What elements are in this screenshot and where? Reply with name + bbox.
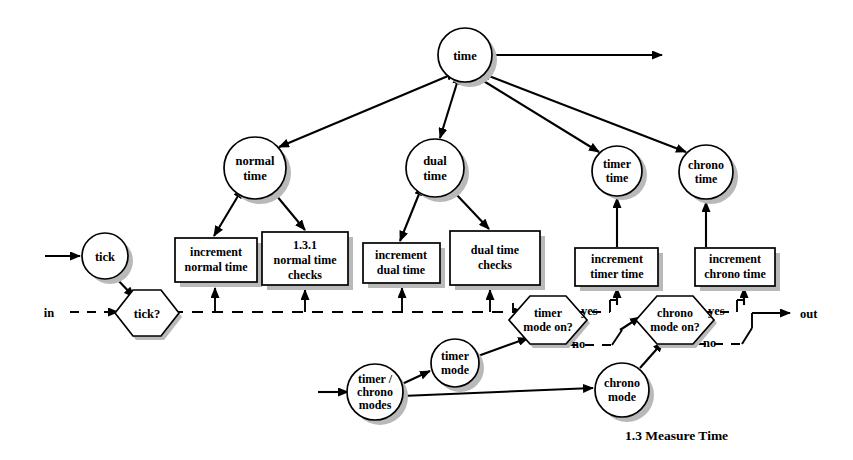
node-chrono-mode[interactable]: chrono mode <box>595 363 654 422</box>
process-increment-timer-time-label-1: increment <box>591 252 643 266</box>
process-increment-dual-time-label-1: increment <box>375 248 427 262</box>
edge-modes-to-timer-mode <box>402 371 430 384</box>
node-time-label: time <box>453 49 477 63</box>
process-increment-dual-time-label-2: dual time <box>377 263 426 277</box>
control-flow-dashed-line <box>172 297 524 312</box>
node-chrono-time-label-1: chrono <box>688 158 724 172</box>
decision-timer-mode-on-label-1: timer <box>534 306 563 320</box>
node-timer-time-label-2: time <box>606 171 629 185</box>
process-increment-normal-time-label-2: normal time <box>185 260 249 274</box>
process-increment-normal-time-label-1: increment <box>190 245 242 259</box>
node-chrono-time-label-2: time <box>695 172 718 186</box>
edge-time-chrono-time <box>489 76 686 152</box>
node-timer-mode-label-2: mode <box>441 363 470 377</box>
label-chrono-yes: yes <box>708 304 725 318</box>
node-tick[interactable]: tick <box>82 233 133 284</box>
label-timer-yes: yes <box>581 304 598 318</box>
node-timer-chrono-modes[interactable]: timer / chrono modes <box>347 364 408 425</box>
node-timer-time[interactable]: timer time <box>592 146 647 200</box>
node-timer-mode[interactable]: timer mode <box>431 339 484 392</box>
edge-dual-time-checks <box>455 193 489 229</box>
edge-normal-time-increment <box>214 196 238 236</box>
label-chrono-no: no <box>703 336 716 350</box>
node-timer-mode-label-1: timer <box>441 349 470 363</box>
edge-modes-to-chrono-mode <box>402 388 593 396</box>
diagram-canvas: time normal time dual time timer time ch… <box>0 0 853 460</box>
process-normal-time-checks-label-3: checks <box>288 268 322 282</box>
process-increment-chrono-time-label-1: increment <box>709 252 761 266</box>
process-increment-normal-time[interactable]: increment normal time <box>175 238 262 287</box>
process-increment-dual-time[interactable]: increment dual time <box>363 243 445 288</box>
process-normal-time-checks[interactable]: 1.3.1 normal time checks <box>262 232 353 290</box>
diagram-caption: 1.3 Measure Time <box>625 428 728 443</box>
process-increment-timer-time[interactable]: increment timer time <box>575 248 663 291</box>
label-out: out <box>800 307 818 321</box>
node-timer-chrono-modes-label-1: timer / <box>358 372 393 386</box>
process-increment-timer-time-label-2: timer time <box>590 267 644 281</box>
process-normal-time-checks-label-2: normal time <box>274 253 338 267</box>
label-in: in <box>44 306 54 320</box>
node-dual-time-label-1: dual <box>423 154 447 168</box>
label-timer-no: no <box>572 337 585 351</box>
decision-tick-question[interactable]: tick? <box>115 290 182 340</box>
edge-time-dual-time <box>440 83 457 138</box>
node-tick-label: tick <box>95 250 115 264</box>
edge-time-normal-time <box>279 76 448 147</box>
process-dual-time-checks-label-1: dual time <box>471 243 520 257</box>
node-timer-chrono-modes-label-2: chrono <box>357 385 393 399</box>
decision-chrono-mode-on-label-1: chrono <box>657 306 693 320</box>
process-increment-chrono-time[interactable]: increment chrono time <box>695 248 780 291</box>
node-chrono-time[interactable]: chrono time <box>679 145 738 204</box>
node-chrono-mode-label-1: chrono <box>604 376 640 390</box>
node-normal-time-label-2: time <box>243 169 267 183</box>
measure-time-dataflow-diagram: time normal time dual time timer time ch… <box>0 0 853 460</box>
edge-time-timer-time <box>482 80 599 152</box>
decision-timer-mode-on-label-2: mode on? <box>523 320 573 334</box>
node-time[interactable]: time <box>438 28 497 87</box>
node-chrono-mode-label-2: mode <box>608 390 637 404</box>
edge-timer-mode-to-timer-question <box>478 338 528 356</box>
node-normal-time-label-1: normal <box>236 154 275 168</box>
node-timer-time-label-1: timer <box>603 157 632 171</box>
edge-dual-time-increment <box>400 194 419 241</box>
process-dual-time-checks-label-2: checks <box>478 258 512 272</box>
process-increment-chrono-time-label-2: chrono time <box>704 267 766 281</box>
process-normal-time-checks-label-1: 1.3.1 <box>293 238 317 252</box>
edge-normal-time-checks <box>276 195 305 230</box>
node-dual-time[interactable]: dual time <box>406 139 469 202</box>
process-dual-time-checks[interactable]: dual time checks <box>450 231 545 290</box>
decision-chrono-mode-on-label-2: mode on? <box>650 320 700 334</box>
node-dual-time-label-2: time <box>423 169 447 183</box>
decision-tick-question-label: tick? <box>134 307 160 321</box>
node-timer-chrono-modes-label-3: modes <box>359 398 392 412</box>
